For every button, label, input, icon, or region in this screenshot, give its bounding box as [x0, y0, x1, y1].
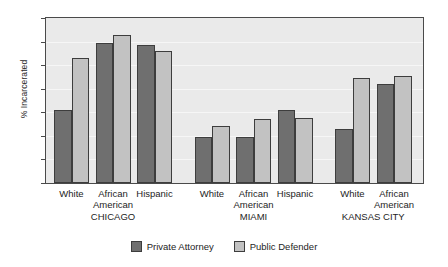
bar-private-6 — [335, 129, 353, 183]
x-category-label: AfricanAmerican — [374, 188, 414, 210]
bar-private-0 — [54, 110, 72, 183]
bar-private-5 — [278, 110, 296, 183]
bar-public-7 — [394, 76, 412, 183]
bar-public-6 — [353, 78, 371, 183]
x-category-label-line1: White — [340, 188, 364, 199]
x-category-label-line2: American — [233, 199, 273, 210]
x-category-label-line2: American — [374, 199, 414, 210]
x-category-label: AfricanAmerican — [233, 188, 273, 210]
x-category-label-line2: American — [93, 199, 133, 210]
bar-private-4 — [236, 137, 254, 183]
x-category-label: Hispanic — [277, 188, 313, 199]
chart-legend: Private Attorney Public Defender — [0, 241, 448, 252]
x-group-label-miami: MIAMI — [240, 211, 267, 222]
x-category-label-line1: Hispanic — [136, 188, 172, 199]
x-category-label: Hispanic — [136, 188, 172, 199]
x-category-label: AfricanAmerican — [93, 188, 133, 210]
y-axis-title: % Incarcerated — [19, 19, 29, 159]
x-category-label-line1: African — [379, 188, 409, 199]
x-category-label: White — [200, 188, 224, 199]
legend-label-public-defender: Public Defender — [250, 241, 318, 252]
bar-chart: % Incarcerated 010203040506070 WhiteAfri… — [0, 0, 448, 267]
bar-public-1 — [113, 35, 131, 184]
legend-swatch-private-attorney — [131, 241, 142, 252]
x-group-label-kansas-city: KANSAS CITY — [342, 211, 405, 222]
bar-private-1 — [96, 43, 114, 183]
legend-item-private-attorney: Private Attorney — [131, 241, 214, 252]
x-category-label-line1: White — [200, 188, 224, 199]
legend-item-public-defender: Public Defender — [234, 241, 318, 252]
x-category-label-line1: Hispanic — [277, 188, 313, 199]
bar-private-7 — [377, 84, 395, 183]
x-group-label-chicago: CHICAGO — [91, 211, 135, 222]
bar-public-2 — [155, 51, 173, 183]
bar-public-0 — [72, 58, 90, 183]
x-category-label-line1: White — [59, 188, 83, 199]
bar-private-2 — [137, 45, 155, 183]
legend-label-private-attorney: Private Attorney — [147, 241, 214, 252]
x-category-label: White — [340, 188, 364, 199]
bar-public-3 — [212, 126, 230, 183]
bar-public-5 — [295, 118, 313, 183]
bar-private-3 — [195, 137, 213, 183]
plot-area — [45, 17, 424, 184]
legend-swatch-public-defender — [234, 241, 245, 252]
x-category-label-line1: African — [98, 188, 128, 199]
bar-public-4 — [254, 119, 272, 183]
x-category-label-line1: African — [239, 188, 269, 199]
x-category-label: White — [59, 188, 83, 199]
